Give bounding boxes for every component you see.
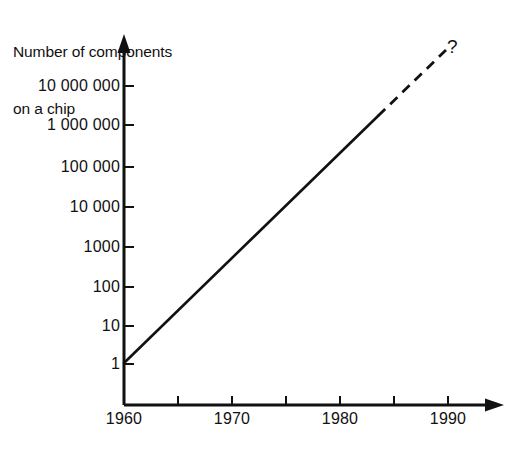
annotation-question-mark: ? [447, 37, 458, 56]
series-projected-line [378, 50, 446, 116]
moores-law-chart: Number of components on a chip 10 000 00… [0, 0, 512, 449]
plot-area [0, 0, 512, 449]
x-axis-arrowhead [485, 399, 504, 412]
series-observed-line [124, 116, 378, 363]
y-axis-arrowhead [118, 34, 131, 53]
